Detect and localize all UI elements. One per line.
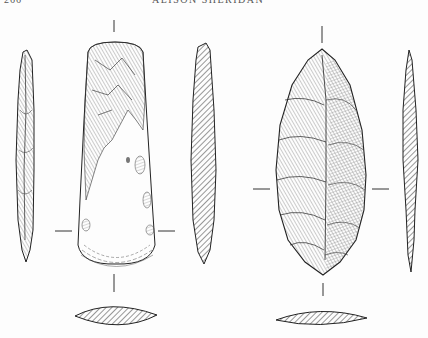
axe-face-view xyxy=(78,42,155,267)
blade-face-view xyxy=(276,49,366,275)
axe-side-profile xyxy=(16,50,34,262)
axe-longitudinal-section xyxy=(191,43,216,264)
artefact-figure xyxy=(0,0,428,338)
blade-transverse-section xyxy=(276,311,367,324)
axe-transverse-section xyxy=(75,307,157,325)
blade-longitudinal-section xyxy=(403,50,418,272)
